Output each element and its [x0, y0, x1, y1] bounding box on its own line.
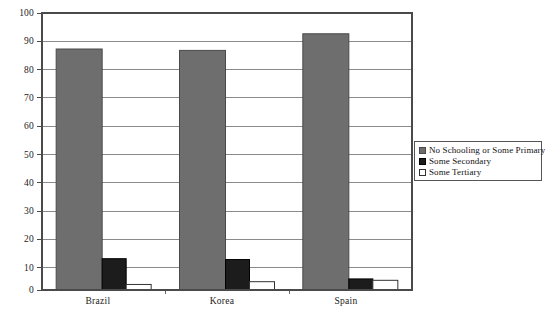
legend-swatch-gray-icon	[419, 147, 426, 154]
bar-group-spain	[303, 34, 398, 290]
bar-spain-some-secondary	[349, 279, 373, 290]
bar-korea-some-secondary	[226, 260, 250, 290]
bar-spain-some-tertiary	[373, 280, 398, 290]
x-axis-label-brazil: Brazil	[68, 296, 128, 306]
x-axis-label-spain: Spain	[316, 296, 376, 306]
bar-brazil-some-tertiary	[126, 284, 151, 290]
legend-item-some-tertiary: Some Tertiary	[419, 167, 537, 178]
bar-brazil-some-secondary	[102, 259, 126, 290]
y-axis-ticks	[37, 13, 42, 290]
bar-group-korea	[180, 50, 275, 290]
legend-item-some-secondary: Some Secondary	[419, 156, 537, 167]
bar-group-brazil	[56, 49, 151, 290]
legend-label-no-schooling: No Schooling or Some Primary	[429, 145, 545, 156]
bar-spain-no-schooling	[303, 34, 349, 290]
bar-brazil-no-schooling	[56, 49, 102, 290]
x-axis-label-korea: Korea	[192, 296, 252, 306]
bar-korea-no-schooling	[180, 50, 226, 290]
legend-swatch-white-icon	[419, 169, 426, 176]
legend-label-some-tertiary: Some Tertiary	[429, 167, 481, 178]
legend-label-some-secondary: Some Secondary	[429, 156, 491, 167]
legend-item-no-schooling: No Schooling or Some Primary	[419, 145, 537, 156]
legend-swatch-black-icon	[419, 158, 426, 165]
legend: No Schooling or Some Primary Some Second…	[414, 141, 542, 181]
bar-korea-some-tertiary	[250, 282, 275, 290]
